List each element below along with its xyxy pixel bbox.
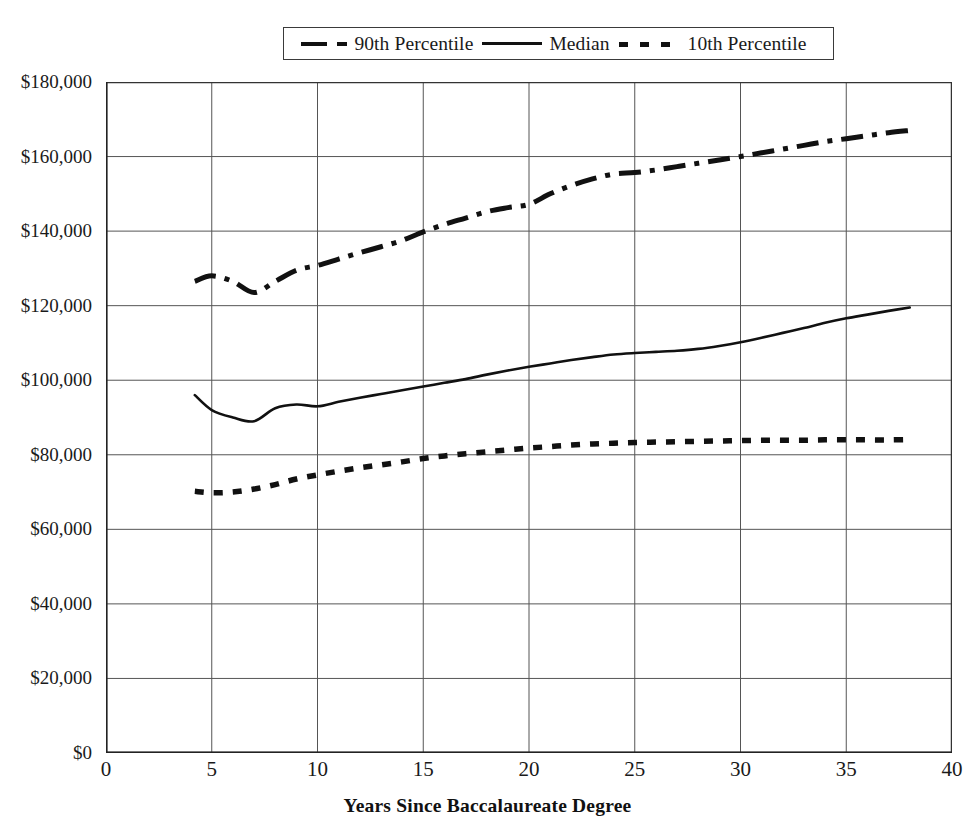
x-axis-tick-label: 0 — [101, 757, 112, 782]
x-axis-tick-label: 25 — [624, 757, 645, 782]
y-axis-tick-label: $100,000 — [21, 369, 92, 391]
x-axis-tick-label: 10 — [307, 757, 328, 782]
y-axis-tick-labels: $0$20,000$40,000$60,000$80,000$100,000$1… — [0, 82, 92, 753]
y-axis-tick-label: $160,000 — [21, 146, 92, 168]
y-axis-tick-label: $20,000 — [30, 667, 92, 689]
y-axis-tick-label: $80,000 — [30, 444, 92, 466]
legend-item-10th-percentile: 10th Percentile — [619, 33, 816, 55]
plot-area — [106, 82, 952, 753]
y-axis-tick-label: $140,000 — [21, 220, 92, 242]
legend-item-median: Median — [482, 33, 618, 55]
legend-label-median: Median — [542, 33, 618, 55]
x-axis-tick-label: 40 — [942, 757, 963, 782]
legend-swatch-dash-dot-icon — [301, 42, 347, 46]
x-axis-tick-label: 35 — [836, 757, 857, 782]
y-axis-tick-label: $180,000 — [21, 71, 92, 93]
legend-swatch-solid-icon — [482, 42, 542, 45]
series-line-median — [195, 308, 910, 422]
legend-swatch-dotted-icon — [619, 42, 681, 46]
x-axis-title: Years Since Baccalaureate Degree — [0, 795, 975, 817]
legend-label-90th-percentile: 90th Percentile — [347, 33, 482, 55]
x-axis-tick-label: 30 — [730, 757, 751, 782]
series-line-90th-percentile — [195, 130, 910, 292]
y-axis-tick-label: $40,000 — [30, 593, 92, 615]
legend-label-10th-percentile: 10th Percentile — [681, 33, 816, 55]
series-line-10th-percentile — [195, 439, 910, 492]
legend-item-90th-percentile: 90th Percentile — [301, 33, 482, 55]
x-axis-tick-label: 20 — [519, 757, 540, 782]
chart-legend: 90th Percentile Median 10th Percentile — [283, 27, 834, 60]
y-axis-tick-label: $120,000 — [21, 295, 92, 317]
y-axis-tick-label: $0 — [73, 742, 92, 764]
x-axis-tick-label: 5 — [207, 757, 218, 782]
line-chart: 90th Percentile Median 10th Percentile $… — [0, 0, 975, 831]
y-axis-tick-label: $60,000 — [30, 518, 92, 540]
x-axis-tick-label: 15 — [413, 757, 434, 782]
